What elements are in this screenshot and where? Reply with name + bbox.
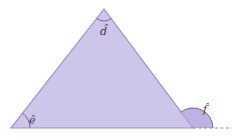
angle-f-label: f̂	[202, 103, 209, 116]
triangle-diagram: d̂ ê f̂	[0, 0, 237, 140]
angle-e-label: ê	[29, 114, 36, 127]
